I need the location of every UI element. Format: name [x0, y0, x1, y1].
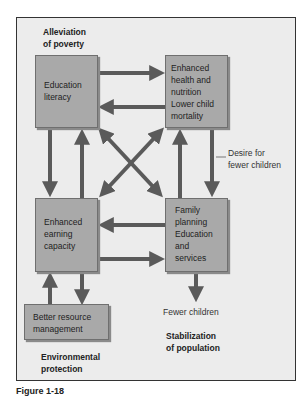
box-family-planning: Family planning Education and services — [165, 198, 228, 272]
box-enhanced-health: Enhanced health and nutrition Lower chil… — [165, 55, 228, 128]
box-line: earning — [44, 228, 97, 240]
heading-line: Alleviation — [43, 26, 86, 38]
box-line: Family — [175, 204, 227, 216]
box-line: planning — [175, 216, 227, 228]
box-line: mortality — [171, 110, 227, 122]
heading-line: of poverty — [43, 38, 86, 50]
heading-alleviation-of-poverty: Alleviation of poverty — [43, 26, 86, 50]
box-line: Education — [44, 79, 97, 91]
heading-line: Stabilization — [166, 330, 220, 342]
box-line: Enhanced — [44, 216, 97, 228]
box-line: Better resource — [33, 311, 108, 323]
figure-caption: Figure 1-18 — [16, 386, 64, 396]
label-line: fewer children — [228, 159, 281, 171]
box-line: services — [175, 252, 227, 264]
label-desire-for-fewer-children: Desire for fewer children — [228, 147, 281, 171]
box-line: literacy — [44, 91, 97, 103]
box-line: capacity — [44, 240, 97, 252]
box-line: Lower child — [171, 98, 227, 110]
box-line: health and — [171, 74, 227, 86]
heading-line: Environmental — [41, 351, 100, 363]
box-enhanced-earning-capacity: Enhanced earning capacity — [35, 198, 98, 272]
heading-line: protection — [41, 363, 100, 375]
box-line: and — [175, 240, 227, 252]
label-line: Desire for — [228, 147, 281, 159]
box-line: Enhanced — [171, 62, 227, 74]
box-line: Education — [175, 228, 227, 240]
box-line: management — [33, 323, 108, 335]
heading-line: of population — [166, 342, 220, 354]
box-line: nutrition — [171, 86, 227, 98]
label-fewer-children: Fewer children — [163, 306, 219, 318]
heading-stabilization-of-population: Stabilization of population — [166, 330, 220, 354]
box-better-resource-management: Better resource management — [24, 304, 109, 340]
box-education-literacy: Education literacy — [35, 55, 98, 128]
heading-environmental-protection: Environmental protection — [41, 351, 100, 375]
